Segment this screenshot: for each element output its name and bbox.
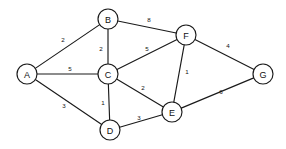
edge-weight-c-e: 2 bbox=[141, 84, 145, 91]
graph-node-e[interactable]: E bbox=[162, 102, 182, 122]
graph-diagram: 253285213164 ABCDEFG bbox=[0, 0, 286, 149]
graph-node-a[interactable]: A bbox=[17, 64, 37, 84]
edge-weight-a-b: 2 bbox=[61, 36, 65, 43]
graph-node-d[interactable]: D bbox=[100, 120, 120, 140]
node-label-d: D bbox=[107, 126, 114, 136]
node-label-c: C bbox=[105, 70, 112, 80]
graph-node-c[interactable]: C bbox=[98, 64, 118, 84]
graph-edge-f-g bbox=[195, 40, 254, 70]
graph-edge-b-f bbox=[118, 21, 176, 33]
edge-weight-e-g: 6 bbox=[219, 88, 223, 95]
graph-edge-a-d bbox=[35, 80, 101, 125]
edge-weight-b-f: 8 bbox=[147, 16, 151, 23]
edge-weight-c-f: 5 bbox=[145, 45, 149, 52]
edge-weight-c-d: 1 bbox=[101, 99, 105, 106]
edge-weight-f-g: 4 bbox=[226, 42, 230, 49]
node-label-a: A bbox=[24, 70, 30, 80]
edge-weights-layer: 253285213164 bbox=[61, 16, 230, 121]
graph-node-g[interactable]: G bbox=[253, 64, 273, 84]
node-label-f: F bbox=[183, 31, 189, 41]
graph-edge-a-b bbox=[35, 25, 99, 69]
graph-edge-c-e bbox=[117, 79, 164, 107]
edge-weight-a-d: 3 bbox=[62, 102, 66, 109]
graph-edge-e-f bbox=[174, 45, 184, 102]
node-label-g: G bbox=[259, 70, 266, 80]
graph-edge-d-e bbox=[120, 115, 163, 127]
edge-weight-b-c: 2 bbox=[99, 45, 103, 52]
graph-edge-c-d bbox=[108, 84, 109, 120]
edge-weight-a-c: 5 bbox=[68, 65, 72, 72]
edge-weight-d-e: 3 bbox=[137, 114, 141, 121]
graph-node-b[interactable]: B bbox=[98, 9, 118, 29]
edge-weight-e-f: 1 bbox=[185, 68, 189, 75]
node-label-b: B bbox=[105, 15, 111, 25]
graph-edge-e-g bbox=[181, 78, 254, 108]
graph-node-f[interactable]: F bbox=[176, 25, 196, 45]
node-label-e: E bbox=[169, 108, 175, 118]
edges-layer bbox=[35, 21, 254, 127]
